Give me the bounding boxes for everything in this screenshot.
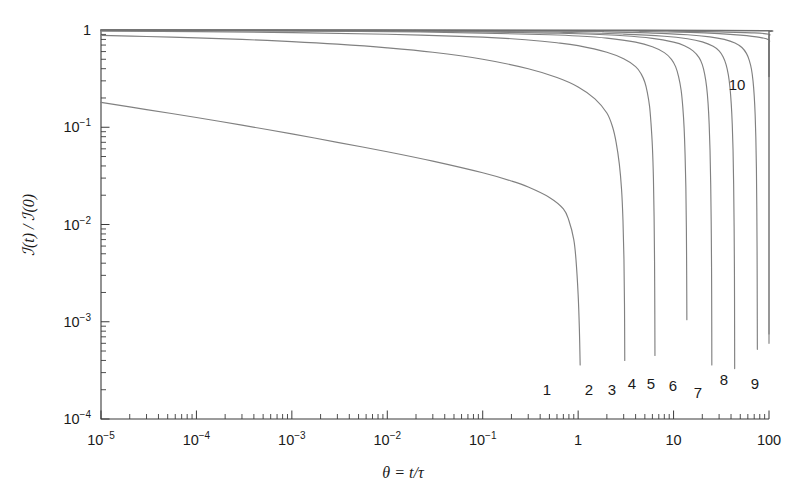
tick-label-exponent: −3 — [294, 430, 306, 441]
curve-label-6: 6 — [669, 377, 677, 394]
tick-label-exponent: −4 — [199, 430, 211, 441]
tick-label-mantissa: 10 — [87, 432, 103, 448]
curve-label-9: 9 — [751, 375, 759, 392]
curve-label-2: 2 — [585, 381, 593, 398]
x-axis-title-text: θ = t/τ — [382, 464, 425, 481]
y-axis-title: ℐ(t) / ℐ(0) — [20, 194, 38, 256]
curve-label-10: 10 — [729, 76, 746, 93]
x-tick-label: 100 — [757, 432, 781, 448]
tick-label-mantissa: 10 — [183, 432, 199, 448]
x-axis-title: θ = t/τ — [382, 464, 425, 481]
x-tick-label: 10 — [666, 432, 682, 448]
y-axis-title-part-2: (t) — [20, 233, 38, 248]
tick-label-exponent: −2 — [80, 215, 92, 226]
tick-label-mantissa: 10 — [63, 314, 79, 330]
tick-label-mantissa: 100 — [757, 432, 781, 448]
curve-label-8: 8 — [720, 371, 728, 388]
curve-label-5: 5 — [647, 375, 655, 392]
tick-label-mantissa: 10 — [374, 432, 390, 448]
curve-label-4: 4 — [628, 375, 636, 392]
figure-background — [0, 0, 795, 501]
tick-label-mantissa: 1 — [83, 22, 91, 38]
y-axis-title-part-7: (0) — [20, 194, 38, 213]
tick-label-exponent: −4 — [80, 409, 92, 420]
tick-label-mantissa: 10 — [63, 217, 79, 233]
tick-label-mantissa: 10 — [63, 411, 79, 427]
curve-label-7: 7 — [694, 384, 702, 401]
tick-label-mantissa: 1 — [574, 432, 582, 448]
y-tick-label: 1 — [83, 22, 91, 38]
tick-label-mantissa: 10 — [278, 432, 294, 448]
tick-label-exponent: −3 — [80, 312, 92, 323]
curve-label-1: 1 — [543, 381, 551, 398]
tick-label-mantissa: 10 — [63, 119, 79, 135]
tick-label-exponent: −5 — [103, 430, 115, 441]
tick-label-exponent: −2 — [390, 430, 402, 441]
figure-root: 10−510−410−310−210−1110100 110−110−210−3… — [0, 0, 795, 501]
y-axis-title-text: ℐ(t) / ℐ(0) — [20, 194, 38, 256]
x-tick-label: 1 — [574, 432, 582, 448]
tick-label-exponent: −1 — [485, 430, 497, 441]
curve-label-3: 3 — [608, 381, 616, 398]
tick-label-mantissa: 10 — [666, 432, 682, 448]
tick-label-exponent: −1 — [80, 117, 92, 128]
log-log-line-chart: 10−510−410−310−210−1110100 110−110−210−3… — [0, 0, 795, 501]
tick-label-mantissa: 10 — [469, 432, 485, 448]
